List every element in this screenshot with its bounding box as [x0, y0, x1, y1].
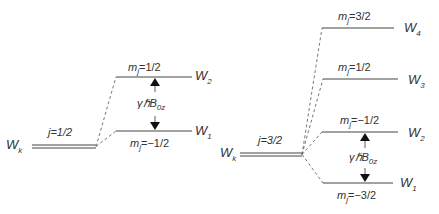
level-lines	[0, 0, 439, 214]
left-upper-mj-label: mj=1/2	[128, 61, 161, 76]
right-mj-label-w3: mj=1/2	[338, 61, 371, 76]
left-w2-label: W2	[195, 68, 212, 86]
left-j-label: j=1/2	[48, 126, 72, 138]
left-w1-label: W1	[195, 123, 212, 141]
right-mj-label-w1: mj=−3/2	[337, 189, 376, 204]
right-mj-label-w4: mj=3/2	[338, 10, 371, 25]
left-base-level-label: Wk	[6, 137, 22, 155]
right-w4-label: W4	[404, 20, 421, 38]
right-mj-label-w2: mj=−1/2	[340, 114, 379, 129]
right-w2-label: W2	[408, 125, 425, 143]
zeeman-splitting-diagram: Wk j=1/2 mj=1/2 W2 γℏB0z W1 mj=−1/2 Wk j…	[0, 0, 439, 214]
left-gap-label: γℏB0z	[137, 97, 165, 112]
left-lower-mj-label: mj=−1/2	[130, 137, 169, 152]
right-base-level-label: Wk	[220, 145, 236, 163]
right-gap-label: γℏB0z	[349, 151, 377, 166]
right-w3-label: W3	[408, 72, 425, 90]
right-j-label: j=3/2	[258, 134, 282, 146]
right-w1-label: W1	[400, 175, 417, 193]
